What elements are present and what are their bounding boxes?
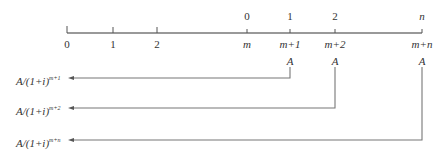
tick-label-1: 1 [110, 38, 116, 50]
payment-amount-1: A [287, 55, 294, 67]
top-label-0: 0 [244, 10, 250, 22]
tick-label-m-plus-n: m+n [412, 38, 433, 50]
tick-label-2: 2 [154, 38, 160, 50]
tick-label-0: 0 [64, 38, 70, 50]
top-label-1: 1 [287, 10, 293, 22]
arrowhead-icon [68, 76, 74, 80]
timeline-ticks [67, 26, 422, 33]
discount-arrow-1 [72, 67, 290, 78]
pv-label-n: A/(1+i)m+n [16, 134, 60, 149]
payment-amount-2: A [332, 55, 339, 67]
payment-amount-n: A [419, 55, 426, 67]
arrowhead-icon [68, 106, 74, 110]
arrowhead-icon [68, 138, 74, 142]
top-label-n: n [419, 10, 425, 22]
discount-arrow-2 [72, 67, 335, 108]
tick-label-m-plus-1: m+1 [280, 38, 301, 50]
timeline-diagram [0, 0, 437, 154]
tick-label-m-plus-2: m+2 [325, 38, 346, 50]
pv-label-2: A/(1+i)m+2 [16, 102, 60, 117]
top-label-2: 2 [332, 10, 338, 22]
pv-label-1: A/(1+i)m+1 [16, 72, 60, 87]
tick-label-m: m [243, 38, 251, 50]
